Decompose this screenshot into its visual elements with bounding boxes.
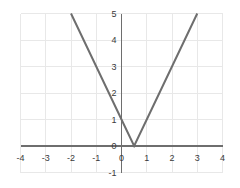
data-series-layer xyxy=(71,14,197,147)
x-tick-label: 2 xyxy=(169,154,174,163)
y-tick-label: 4 xyxy=(0,36,117,45)
x-tick-label: -4 xyxy=(16,154,24,163)
x-tick-label: -3 xyxy=(42,154,50,163)
x-tick-label: 3 xyxy=(195,154,200,163)
x-tick-label: -2 xyxy=(67,154,75,163)
chart-container: -4-3-2-101234 -1012345 xyxy=(0,0,240,188)
y-tick-label: 1 xyxy=(0,115,117,124)
x-tick-label: 1 xyxy=(144,154,149,163)
y-tick-label: 0 xyxy=(0,142,117,151)
x-tick-label: 4 xyxy=(220,154,225,163)
y-tick-label: -1 xyxy=(0,168,117,177)
x-tick-label: -1 xyxy=(92,154,100,163)
series-line-0 xyxy=(71,14,197,147)
y-tick-label: 2 xyxy=(0,89,117,98)
y-tick-label: 3 xyxy=(0,62,117,71)
x-tick-label: 0 xyxy=(119,154,124,163)
y-tick-label: 5 xyxy=(0,9,117,18)
